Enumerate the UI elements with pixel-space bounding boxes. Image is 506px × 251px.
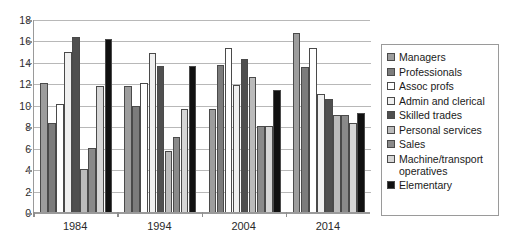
- y-axis-tick-mark: [27, 106, 32, 108]
- bar: [165, 151, 173, 213]
- chart-container: 024681012141618 ManagersProfessionalsAss…: [0, 0, 506, 251]
- legend-label: Machine/transport operatives: [399, 153, 493, 177]
- bar: [48, 123, 56, 213]
- bar: [64, 52, 72, 213]
- bar: [333, 115, 341, 213]
- bar: [265, 126, 273, 213]
- bar: [309, 48, 317, 213]
- legend-swatch-icon: [387, 97, 395, 105]
- x-axis-tick-mark: [202, 212, 204, 217]
- bar: [173, 137, 181, 213]
- legend-item[interactable]: Professionals: [387, 66, 493, 78]
- y-axis-tick-mark: [27, 63, 32, 65]
- legend-swatch-icon: [387, 111, 395, 119]
- bar: [257, 126, 265, 213]
- bar: [181, 109, 189, 213]
- bar: [40, 83, 48, 213]
- legend-label: Skilled trades: [399, 109, 462, 121]
- bar: [124, 86, 132, 213]
- bar: [132, 106, 140, 213]
- x-axis-label-2004: 2004: [214, 220, 274, 232]
- bar: [233, 85, 241, 213]
- bar: [157, 66, 165, 213]
- y-axis-tick-mark: [27, 192, 32, 194]
- bar: [105, 39, 113, 213]
- bar: [209, 109, 217, 213]
- bar: [80, 169, 88, 213]
- legend-label: Elementary: [399, 179, 452, 191]
- x-axis-tick-mark: [117, 212, 119, 217]
- bar: [225, 48, 233, 213]
- legend-label: Assoc profs: [399, 80, 454, 92]
- legend-item[interactable]: Elementary: [387, 179, 493, 191]
- legend-item[interactable]: Admin and clerical: [387, 95, 493, 107]
- legend-item[interactable]: Managers: [387, 51, 493, 63]
- legend-item[interactable]: Skilled trades: [387, 109, 493, 121]
- legend-item[interactable]: Sales: [387, 138, 493, 150]
- x-axis-tick-mark: [286, 212, 288, 217]
- legend-swatch-icon: [387, 126, 395, 134]
- y-axis-tick-mark: [27, 41, 32, 43]
- plot-area: [34, 20, 370, 213]
- bar: [72, 37, 80, 213]
- bar: [301, 67, 309, 213]
- y-axis-tick-mark: [27, 20, 32, 22]
- legend-swatch-icon: [387, 68, 395, 76]
- bar: [357, 113, 365, 213]
- legend-swatch-icon: [387, 82, 395, 90]
- bar: [249, 77, 257, 213]
- y-axis-tick-mark: [27, 149, 32, 151]
- bar: [56, 104, 64, 213]
- bar-group-1984: [34, 20, 118, 213]
- bar: [293, 33, 301, 213]
- bar: [189, 66, 197, 213]
- legend-item[interactable]: Machine/transport operatives: [387, 153, 493, 177]
- bar: [217, 65, 225, 213]
- legend-swatch-icon: [387, 181, 395, 189]
- y-axis-tick-mark: [27, 213, 32, 215]
- bar: [149, 53, 157, 213]
- bar: [341, 115, 349, 213]
- legend-label: Sales: [399, 138, 425, 150]
- bar: [140, 83, 148, 213]
- legend-item[interactable]: Personal services: [387, 124, 493, 136]
- bar-group-1994: [118, 20, 202, 213]
- legend-label: Managers: [399, 51, 446, 63]
- x-axis-label-1994: 1994: [129, 220, 189, 232]
- plot-frame: [33, 20, 370, 213]
- y-axis-tick-mark: [27, 170, 32, 172]
- legend-label: Professionals: [399, 66, 462, 78]
- y-axis: 024681012141618: [0, 0, 31, 251]
- legend-swatch-icon: [387, 155, 395, 163]
- chart-legend: ManagersProfessionalsAssoc profsAdmin an…: [381, 44, 499, 216]
- legend-swatch-icon: [387, 53, 395, 61]
- bar: [349, 123, 357, 213]
- bar: [241, 59, 249, 213]
- legend-label: Admin and clerical: [399, 95, 485, 107]
- legend-label: Personal services: [399, 124, 482, 136]
- bar: [273, 90, 281, 213]
- y-axis-tick-mark: [27, 127, 32, 129]
- legend-swatch-icon: [387, 140, 395, 148]
- bar: [88, 148, 96, 213]
- bar-group-2014: [287, 20, 371, 213]
- bar-group-2004: [203, 20, 287, 213]
- legend-item[interactable]: Assoc profs: [387, 80, 493, 92]
- y-axis-tick-mark: [27, 84, 32, 86]
- bar: [317, 94, 325, 213]
- x-axis-label-2014: 2014: [298, 220, 358, 232]
- x-axis-tick-mark: [33, 212, 35, 217]
- bar: [325, 99, 333, 213]
- bar: [96, 86, 104, 213]
- x-axis-label-1984: 1984: [45, 220, 105, 232]
